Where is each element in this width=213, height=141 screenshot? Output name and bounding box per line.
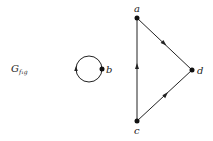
node-label-a: a [134,3,140,14]
node-label-c: c [134,125,140,136]
node-label-d: d [197,65,203,76]
arrow-icon [135,63,139,69]
graph-diagram: Gf₁g a b c d [0,0,213,141]
arrow-icon [162,92,168,98]
node-d [190,68,195,73]
node-a [135,16,140,21]
node-c [135,119,140,124]
node-label-b: b [106,64,112,75]
graph-title: Gf₁g [11,63,28,76]
edge-loop-b [76,56,102,82]
arrow-icon [74,66,78,71]
node-b [100,67,105,72]
